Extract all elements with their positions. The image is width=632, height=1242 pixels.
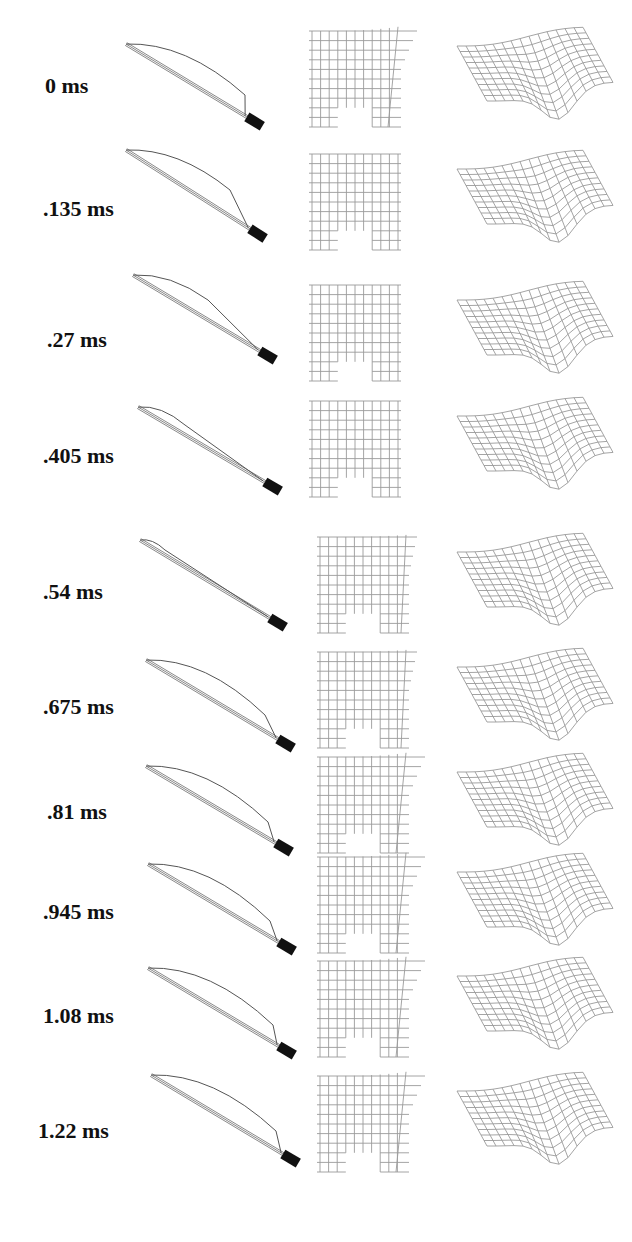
time-label: .27 ms — [47, 329, 107, 351]
planar-mesh — [317, 853, 425, 953]
time-label: 1.08 ms — [43, 1005, 114, 1027]
planar-mesh — [309, 285, 401, 381]
surface-mesh — [457, 648, 613, 740]
surface-mesh — [457, 1072, 613, 1164]
surface-mesh — [457, 27, 613, 119]
surface-mesh — [457, 150, 613, 242]
time-label: .405 ms — [43, 445, 114, 467]
time-label: .81 ms — [47, 801, 107, 823]
surface-mesh — [457, 853, 613, 945]
time-label: 1.22 ms — [38, 1120, 109, 1142]
planar-mesh — [309, 27, 417, 127]
time-label: .675 ms — [43, 696, 114, 718]
element-side-view — [139, 539, 288, 632]
planar-mesh — [317, 535, 417, 633]
time-label: .54 ms — [43, 581, 103, 603]
element-side-view — [132, 274, 278, 365]
drawing-canvas — [0, 0, 632, 1242]
planar-mesh — [309, 401, 401, 497]
planar-mesh — [309, 154, 401, 250]
element-side-view — [150, 1074, 301, 1168]
planar-mesh — [317, 1072, 425, 1172]
surface-mesh — [457, 281, 613, 373]
time-label: .135 ms — [43, 198, 114, 220]
time-label: 0 ms — [45, 75, 88, 97]
planar-mesh — [317, 650, 417, 748]
element-side-view — [137, 406, 283, 496]
element-side-view — [125, 43, 265, 131]
surface-mesh — [457, 533, 613, 625]
time-label: .945 ms — [43, 901, 114, 923]
element-side-view — [147, 863, 297, 956]
element-side-view — [147, 967, 297, 1060]
surface-mesh — [457, 957, 613, 1049]
planar-mesh — [317, 957, 425, 1057]
surface-mesh — [457, 397, 613, 489]
element-side-view — [145, 765, 294, 857]
element-side-view — [125, 149, 268, 243]
planar-mesh — [317, 753, 425, 853]
surface-mesh — [457, 753, 613, 845]
element-side-view — [145, 659, 296, 753]
